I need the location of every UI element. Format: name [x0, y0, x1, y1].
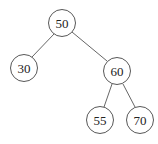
tree-node-55: 55 [87, 107, 114, 134]
tree-node-50: 50 [49, 10, 76, 37]
node-label: 70 [134, 113, 147, 128]
node-label: 55 [94, 113, 107, 128]
edge-50-60 [72, 32, 107, 61]
tree-node-60: 60 [104, 58, 131, 85]
tree-diagram: 50 30 60 55 70 [0, 0, 158, 144]
tree-node-30: 30 [11, 55, 38, 82]
edge-60-55 [104, 84, 112, 107]
tree-node-70: 70 [127, 107, 154, 134]
node-label: 50 [56, 16, 69, 31]
node-label: 60 [111, 64, 124, 79]
node-label: 30 [18, 61, 31, 76]
edge-60-70 [123, 84, 135, 107]
edge-50-30 [32, 34, 54, 57]
